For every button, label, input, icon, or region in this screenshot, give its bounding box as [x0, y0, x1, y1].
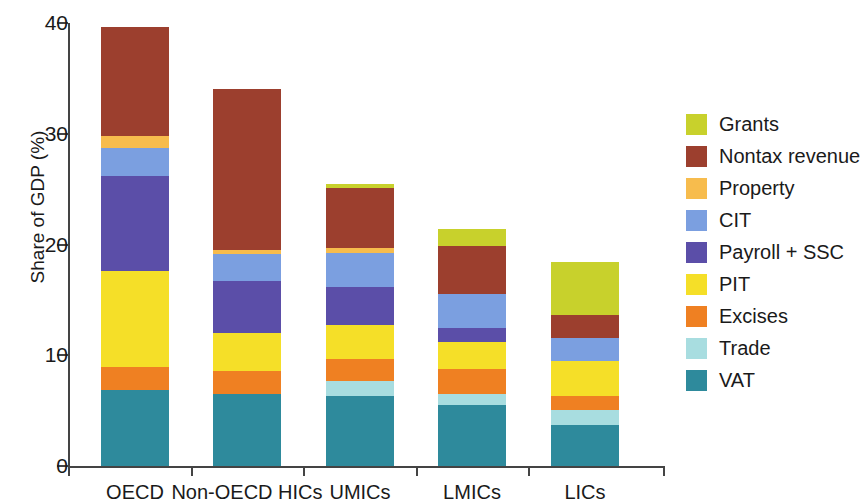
bar-oecd [101, 27, 169, 466]
legend-swatch-icon [686, 210, 707, 231]
legend-swatch-icon [686, 274, 707, 295]
legend-item-label: Trade [719, 338, 771, 358]
bar-segment-vat [551, 425, 619, 466]
bar-segment-cit [101, 148, 169, 176]
bar-segment-cit [213, 254, 281, 281]
y-tick-label: 0 [14, 455, 68, 476]
x-axis-label-lmics: LMICs [443, 481, 501, 502]
bar-lics [551, 262, 619, 466]
bar-segment-cit [551, 338, 619, 361]
y-tick-label: 30 [14, 123, 68, 144]
bar-segment-property [213, 250, 281, 254]
bar-non-oecd-hics [213, 89, 281, 466]
bar-segment-vat [326, 396, 394, 466]
y-tick-label: 20 [14, 234, 68, 255]
legend-item-label: VAT [719, 370, 755, 390]
bar-segment-property [101, 136, 169, 148]
bar-segment-pit [101, 271, 169, 367]
x-axis-label-lics: LICs [564, 481, 605, 502]
bar-segment-payroll-ssc [101, 176, 169, 271]
bar-segment-excises [438, 369, 506, 394]
bar-segment-excises [326, 359, 394, 381]
x-tick-mark [68, 466, 70, 476]
legend-swatch-icon [686, 242, 707, 263]
legend-item-pit[interactable]: PIT [686, 268, 860, 300]
bar-umics [326, 184, 394, 466]
bar-segment-nontax-revenue [438, 246, 506, 295]
legend-item-label: Property [719, 178, 795, 198]
bar-segment-excises [551, 396, 619, 409]
legend-item-label: Payroll + SSC [719, 242, 844, 262]
bar-segment-excises [213, 371, 281, 394]
legend-item-label: PIT [719, 274, 750, 294]
x-tick-mark [416, 466, 418, 476]
bar-segment-payroll-ssc [326, 287, 394, 326]
bar-segment-nontax-revenue [551, 315, 619, 337]
x-axis-label-oecd: OECD [106, 481, 164, 502]
y-tick-label: 40 [14, 12, 68, 33]
bar-segment-vat [101, 390, 169, 466]
bar-segment-nontax-revenue [326, 188, 394, 248]
bar-segment-grants [438, 229, 506, 246]
legend-item-cit[interactable]: CIT [686, 204, 860, 236]
legend-swatch-icon [686, 146, 707, 167]
legend-item-nontax-revenue[interactable]: Nontax revenue [686, 140, 860, 172]
bar-segment-vat [213, 394, 281, 466]
legend-item-label: CIT [719, 210, 751, 230]
chart-legend: GrantsNontax revenuePropertyCITPayroll +… [686, 108, 860, 396]
y-axis-title: Share of GDP (%) [27, 77, 49, 337]
bar-segment-nontax-revenue [101, 27, 169, 136]
x-tick-mark [303, 466, 305, 476]
legend-swatch-icon [686, 370, 707, 391]
legend-item-label: Nontax revenue [719, 146, 860, 166]
bar-segment-excises [101, 367, 169, 389]
x-tick-mark [663, 466, 665, 476]
x-axis-label-umics: UMICs [329, 481, 390, 502]
bar-segment-cit [438, 294, 506, 327]
bar-segment-grants [551, 262, 619, 315]
bar-segment-cit [326, 253, 394, 286]
bar-segment-trade [551, 410, 619, 426]
bar-segment-vat [438, 405, 506, 466]
legend-item-excises[interactable]: Excises [686, 300, 860, 332]
legend-item-vat[interactable]: VAT [686, 364, 860, 396]
legend-item-payroll-ssc[interactable]: Payroll + SSC [686, 236, 860, 268]
bar-segment-payroll-ssc [213, 281, 281, 333]
bar-segment-pit [438, 342, 506, 369]
legend-item-label: Excises [719, 306, 788, 326]
legend-swatch-icon [686, 178, 707, 199]
legend-swatch-icon [686, 114, 707, 135]
bar-segment-trade [326, 381, 394, 397]
x-axis-line [68, 466, 663, 468]
bar-segment-trade [438, 394, 506, 405]
bar-segment-payroll-ssc [438, 328, 506, 342]
bar-segment-grants [326, 184, 394, 188]
x-axis-label-non-oecd-hics: Non-OECD HICs [171, 481, 322, 502]
legend-swatch-icon [686, 306, 707, 327]
legend-swatch-icon [686, 338, 707, 359]
legend-item-grants[interactable]: Grants [686, 108, 860, 140]
bar-lmics [438, 229, 506, 466]
bar-segment-property [326, 248, 394, 254]
legend-item-label: Grants [719, 114, 779, 134]
x-tick-mark [191, 466, 193, 476]
bar-segment-pit [551, 361, 619, 396]
bar-segment-nontax-revenue [213, 89, 281, 250]
x-tick-mark [528, 466, 530, 476]
bar-segment-pit [326, 325, 394, 358]
legend-item-trade[interactable]: Trade [686, 332, 860, 364]
legend-item-property[interactable]: Property [686, 172, 860, 204]
y-tick-label: 10 [14, 344, 68, 365]
bar-segment-pit [213, 333, 281, 371]
